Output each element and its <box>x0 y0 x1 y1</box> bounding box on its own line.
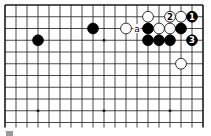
white-stone <box>176 11 187 22</box>
black-stone <box>143 35 154 46</box>
move-number-3: 3 <box>189 35 195 45</box>
caption-marker <box>6 131 13 136</box>
board-grid <box>5 5 203 128</box>
hoshi-point <box>169 109 172 112</box>
hoshi-point <box>103 39 106 42</box>
white-stone <box>176 58 187 69</box>
white-stone <box>121 23 132 34</box>
black-stone <box>143 23 154 34</box>
hoshi-point <box>103 109 106 112</box>
move-number-1: 1 <box>189 12 195 22</box>
white-stone <box>143 11 154 22</box>
move-number-2: 2 <box>167 12 173 22</box>
go-board: 213 a <box>0 0 211 136</box>
white-stone <box>154 23 165 34</box>
black-stone <box>176 23 187 34</box>
white-stone <box>165 23 176 34</box>
hoshi-point <box>37 109 40 112</box>
black-stone <box>88 23 99 34</box>
point-label-a: a <box>134 24 140 34</box>
black-stone <box>154 35 165 46</box>
black-stone <box>165 35 176 46</box>
point-labels: a <box>134 24 141 34</box>
black-stone <box>33 35 44 46</box>
